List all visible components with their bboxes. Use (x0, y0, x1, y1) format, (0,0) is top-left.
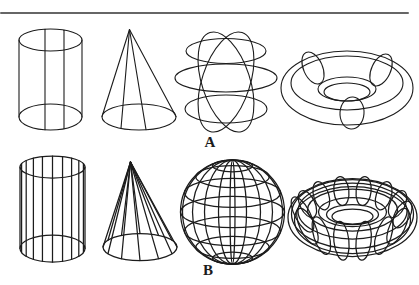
cylinder-coarse-wireframe (19, 29, 82, 130)
row-b-label: B (195, 263, 221, 278)
figure-page: A B (0, 0, 419, 285)
cone-dense-wireframe (103, 162, 177, 261)
cone-coarse-wireframe (102, 30, 176, 131)
torus-coarse-wireframe (281, 49, 413, 130)
cylinder-dense-wireframe (20, 156, 85, 262)
sphere-dense-wireframe (181, 160, 285, 264)
row-a-label: A (197, 135, 223, 150)
torus-dense-wireframe (287, 176, 417, 261)
sphere-coarse-wireframe (175, 25, 277, 139)
